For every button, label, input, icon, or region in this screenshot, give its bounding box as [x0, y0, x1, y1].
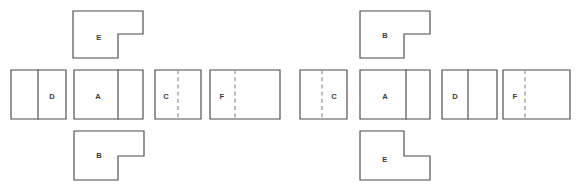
- shape-left-c: C: [155, 70, 201, 119]
- shape-left-e-top: E: [73, 11, 143, 58]
- shape-label-right-d: D: [452, 92, 458, 101]
- shape-outline-left-b-bottom: [74, 131, 144, 180]
- shape-group-right-arrangement: BCADFE: [300, 11, 570, 180]
- shape-right-e-bottom: E: [360, 131, 430, 180]
- shape-right-a: A: [360, 70, 430, 119]
- shape-label-left-f: F: [220, 92, 225, 101]
- shapes-canvas: EDACFBBCADFE: [0, 0, 579, 193]
- shape-right-d: D: [442, 70, 497, 119]
- shape-label-left-d: D: [49, 92, 55, 101]
- shape-left-a: A: [74, 70, 143, 119]
- shape-label-left-e-top: E: [96, 33, 101, 42]
- shape-label-right-b-top: B: [382, 31, 388, 40]
- shape-label-left-a: A: [95, 92, 101, 101]
- shape-left-b-bottom: B: [74, 131, 144, 180]
- shape-right-c: C: [300, 70, 347, 119]
- shape-outline-right-b-top: [360, 11, 430, 58]
- shape-group-left-arrangement: EDACFB: [11, 11, 280, 180]
- shape-outline-right-a: [360, 70, 430, 119]
- shape-outline-right-c: [300, 70, 347, 119]
- shape-label-right-c: C: [331, 92, 337, 101]
- shape-left-d: D: [11, 70, 66, 119]
- shape-label-right-a: A: [382, 92, 388, 101]
- shape-outline-right-e-bottom: [360, 131, 430, 180]
- shape-right-f: F: [503, 70, 570, 119]
- shape-label-left-b-bottom: B: [96, 151, 102, 160]
- shape-outline-right-d: [442, 70, 497, 119]
- shape-label-left-c: C: [163, 92, 169, 101]
- shape-right-b-top: B: [360, 11, 430, 58]
- shape-label-right-f: F: [513, 92, 518, 101]
- shape-left-f: F: [210, 70, 280, 119]
- shape-outline-left-e-top: [73, 11, 143, 58]
- shape-layout-diagram: EDACFBBCADFE: [0, 0, 579, 193]
- shape-label-right-e-bottom: E: [382, 155, 387, 164]
- shape-outline-left-a: [74, 70, 143, 119]
